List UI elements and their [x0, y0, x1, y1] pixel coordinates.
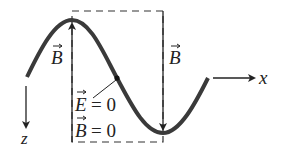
e-equals-zero-label: E = 0	[74, 90, 116, 115]
b-equals-zero-label: B = 0	[75, 116, 116, 141]
svg-text:= 0: = 0	[91, 94, 116, 115]
z-axis-label: z	[20, 129, 28, 148]
right-b-vector-label: B	[169, 44, 181, 68]
x-axis-label: x	[258, 67, 268, 88]
svg-text:B: B	[169, 47, 181, 68]
svg-text:E: E	[74, 94, 87, 115]
zero-field-point	[114, 75, 119, 80]
svg-text:B: B	[75, 120, 87, 141]
svg-text:= 0: = 0	[91, 120, 116, 141]
wave-diagram: B B x z E = 0 B = 0	[0, 0, 285, 148]
svg-text:B: B	[51, 47, 63, 68]
left-b-vector-label: B	[51, 44, 63, 68]
